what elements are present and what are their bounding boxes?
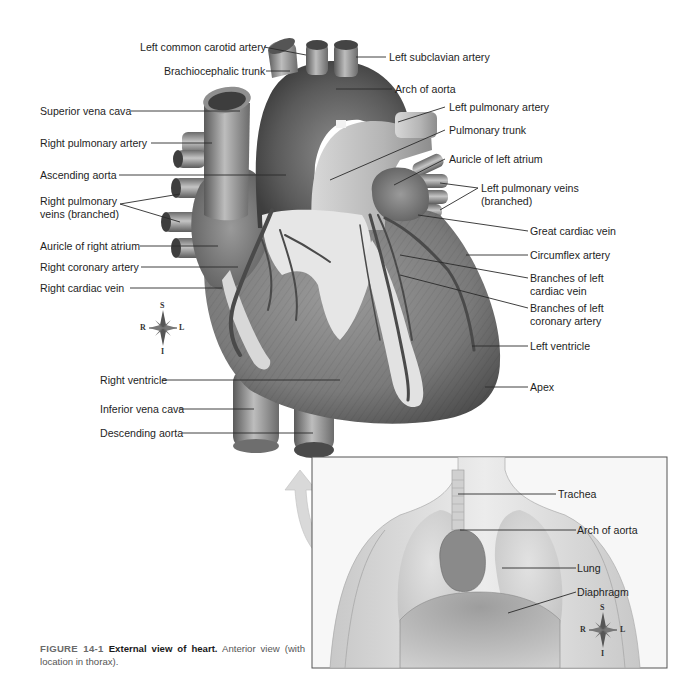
- figure-title: External view of heart.: [109, 643, 218, 654]
- label-left-common-carotid-artery: Left common carotid artery: [140, 41, 266, 54]
- label-left-pulmonary-artery: Left pulmonary artery: [449, 101, 549, 114]
- label-left-subclavian-artery: Left subclavian artery: [389, 51, 490, 64]
- compass-inferior-thorax: I: [601, 649, 604, 658]
- label-line: Branches of left: [530, 272, 604, 285]
- label-line: coronary artery: [530, 315, 604, 328]
- label-right-ventricle: Right ventricle: [100, 374, 167, 387]
- compass-rose-heart: [149, 310, 177, 346]
- label-brachiocephalic-trunk: Brachiocephalic trunk: [164, 65, 265, 78]
- label-great-cardiac-vein: Great cardiac vein: [530, 225, 616, 238]
- label-line: Right pulmonary: [40, 195, 119, 208]
- label-descending-aorta: Descending aorta: [100, 427, 183, 440]
- label-right-pulmonary-veins: Right pulmonary veins (branched): [40, 195, 119, 220]
- superior-vena-cava-shape: [204, 103, 250, 220]
- compass-superior-thorax: S: [600, 603, 604, 612]
- compass-superior: S: [160, 301, 164, 310]
- label-arch-of-aorta: Arch of aorta: [395, 83, 456, 96]
- label-line: Left pulmonary veins: [481, 182, 579, 195]
- compass-right-thorax: R: [580, 625, 586, 634]
- label-pulmonary-trunk: Pulmonary trunk: [449, 124, 526, 137]
- label-inferior-vena-cava: Inferior vena cava: [100, 403, 184, 416]
- label-line: cardiac vein: [530, 285, 604, 298]
- label-right-cardiac-vein: Right cardiac vein: [40, 282, 124, 295]
- label-branches-left-cardiac-vein: Branches of left cardiac vein: [530, 272, 604, 297]
- compass-left: L: [179, 323, 184, 332]
- label-line: veins (branched): [40, 208, 119, 221]
- label-apex: Apex: [530, 381, 554, 394]
- label-superior-vena-cava: Superior vena cava: [40, 105, 131, 118]
- label-left-pulmonary-veins: Left pulmonary veins (branched): [481, 182, 579, 207]
- label-auricle-right-atrium: Auricle of right atrium: [40, 240, 140, 253]
- label-lung: Lung: [577, 562, 601, 575]
- label-left-ventricle: Left ventricle: [530, 340, 590, 353]
- label-circumflex-artery: Circumflex artery: [530, 249, 610, 262]
- label-line: Branches of left: [530, 302, 604, 315]
- label-right-coronary-artery: Right coronary artery: [40, 261, 139, 274]
- label-arch-of-aorta-thorax: Arch of aorta: [577, 524, 638, 537]
- compass-inferior: I: [161, 347, 164, 356]
- label-diaphragm: Diaphragm: [577, 586, 629, 599]
- compass-right: R: [140, 323, 146, 332]
- label-branches-left-coronary-artery: Branches of left coronary artery: [530, 302, 604, 327]
- thorax-inset: [312, 457, 667, 668]
- label-right-pulmonary-artery: Right pulmonary artery: [40, 137, 147, 150]
- figure-caption: FIGURE 14-1 External view of heart. Ante…: [40, 642, 305, 668]
- label-trachea: Trachea: [558, 488, 596, 501]
- label-ascending-aorta: Ascending aorta: [40, 169, 117, 182]
- compass-left-thorax: L: [620, 625, 625, 634]
- label-line: (branched): [481, 195, 579, 208]
- figure-number: FIGURE 14-1: [40, 643, 104, 654]
- label-auricle-left-atrium: Auricle of left atrium: [449, 153, 543, 166]
